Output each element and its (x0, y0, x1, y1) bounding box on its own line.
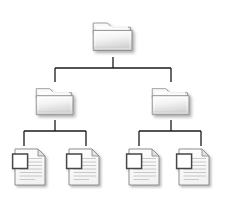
document-1[interactable] (13, 149, 45, 185)
folder-icon (36, 89, 73, 115)
document-icon (67, 149, 99, 185)
folder-right[interactable] (152, 89, 189, 115)
folder-left[interactable] (36, 89, 73, 115)
folder-icon (93, 23, 132, 50)
root-folder[interactable] (93, 23, 132, 50)
document-icon (127, 149, 159, 185)
document-2[interactable] (67, 149, 99, 185)
document-3[interactable] (127, 149, 159, 185)
diagram-canvas (0, 0, 226, 201)
document-4[interactable] (177, 149, 209, 185)
document-icon (177, 149, 209, 185)
folder-icon (152, 89, 189, 115)
document-icon (13, 149, 45, 185)
file-hierarchy-tree (0, 0, 226, 201)
